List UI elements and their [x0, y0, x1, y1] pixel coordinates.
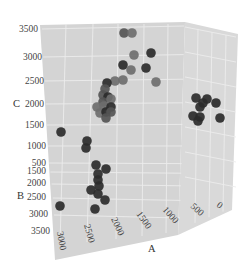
data-point	[215, 113, 225, 123]
data-point	[55, 201, 65, 211]
data-point	[141, 63, 151, 73]
y-tick: 3000	[29, 209, 48, 219]
scatter-3d-chart: 3500 3000 2500 2000 1500 1000 C 500 1500…	[0, 0, 247, 264]
data-point	[195, 102, 205, 112]
z-tick: 1500	[25, 120, 44, 130]
z-tick: 2000	[25, 99, 44, 109]
x-axis-label: A	[148, 243, 156, 254]
data-point	[91, 160, 101, 170]
data-point	[101, 164, 111, 174]
y-tick: 3500	[31, 226, 50, 236]
data-point	[126, 65, 136, 75]
right-back-pane	[178, 22, 238, 235]
data-point	[118, 75, 128, 85]
z-tick: 3000	[23, 52, 42, 62]
z-tick: 2500	[25, 76, 44, 86]
z-tick: 3500	[19, 24, 38, 34]
data-point	[193, 116, 203, 126]
data-point	[101, 113, 111, 123]
data-point	[146, 48, 156, 58]
z-axis-label: C	[13, 98, 20, 109]
data-point	[151, 77, 161, 87]
data-point	[90, 204, 100, 214]
y-axis-label: B	[17, 190, 24, 201]
data-point	[127, 28, 137, 38]
data-point	[100, 195, 110, 205]
y-tick: 1500	[27, 166, 46, 176]
z-tick: 1000	[27, 141, 46, 151]
data-point	[211, 98, 221, 108]
y-tick: 2500	[27, 192, 46, 202]
y-tick: 2000	[27, 178, 46, 188]
data-point	[81, 143, 91, 153]
data-point	[56, 127, 66, 137]
data-point	[118, 60, 128, 70]
data-point	[129, 50, 139, 60]
